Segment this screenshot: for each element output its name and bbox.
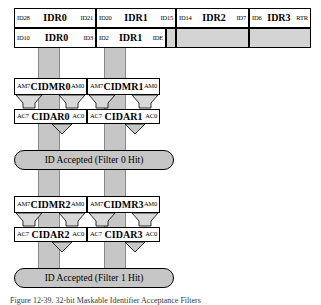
cidar1-register: AC7 CIDAR1 AC0 (87, 109, 160, 124)
cidmr2-name: CIDMR2 (30, 200, 71, 210)
cidmr0-name: CIDMR0 (30, 82, 71, 92)
cidmr2-left: AM7 (17, 201, 30, 208)
idr-row1-cell-0: ID28 IDR0 ID21 (14, 8, 96, 28)
cidar3-left: AC7 (90, 231, 102, 238)
cidar2-left: AC7 (17, 231, 29, 238)
idr-row1-cell-2-name: IDR2 (192, 13, 237, 23)
compare-triangles-filter0 (14, 124, 160, 135)
idr-row1-cell-1-right: ID15 (160, 15, 173, 22)
cidar3-right: AC0 (145, 231, 157, 238)
idr-row2-cell-1: ID2 IDR1 IDE (96, 28, 166, 48)
connector-bar-f1-right-feed (104, 170, 126, 196)
cidar2-name: CIDAR2 (29, 230, 73, 240)
cidmr1-name: CIDMR1 (103, 82, 144, 92)
idr-row1-cell-1-left: ID20 (99, 15, 112, 22)
funnel-arrows-filter0 (14, 95, 160, 109)
idr-row1-cell-0-name: IDR0 (30, 13, 81, 23)
cidar2-register: AC7 CIDAR2 AC0 (14, 227, 87, 242)
cidar2-right: AC0 (72, 231, 84, 238)
idr-row2-cell-1-left: ID2 (99, 35, 109, 42)
idr-row1-cell-3: ID6 IDR3 RTR (249, 8, 311, 28)
cidmr3-register: AM7 CIDMR3 AM0 (87, 196, 160, 213)
cidmr1-right: AM0 (144, 83, 157, 90)
cidar1-left: AC7 (90, 113, 102, 120)
cidar0-name: CIDAR0 (29, 112, 73, 122)
idr-row2-cell-2-empty (166, 28, 176, 48)
compare-triangles-filter1 (14, 242, 160, 253)
cidar0-right: AC0 (72, 113, 84, 120)
connector-bar-idr1-col (104, 48, 126, 78)
id-accepted-filter0: ID Accepted (Filter 0 Hit) (14, 150, 174, 170)
cidar3-register: AC7 CIDAR3 AC0 (87, 227, 160, 242)
cidar1-right: AC0 (145, 113, 157, 120)
cidmr3-right: AM0 (144, 201, 157, 208)
idr-row2-cell-3-empty (176, 28, 249, 48)
cidmr1-left: AM7 (90, 83, 103, 90)
figure-caption: Figure 12-39. 32-bit Maskable Identifier… (10, 296, 315, 305)
idr-row2-cell-0-right: ID3 (83, 35, 93, 42)
idr-row1-cell-3-right: RTR (296, 15, 308, 22)
idr-row2-cell-0-name: IDR0 (30, 33, 84, 43)
idr-row1-cell-2-left: ID14 (179, 15, 192, 22)
idr-row1-cell-1: ID20 IDR1 ID15 (96, 8, 176, 28)
cidmr0-register: AM7 CIDMR0 AM0 (14, 78, 87, 95)
idr-row1-cell-2: ID14 IDR2 ID7 (176, 8, 249, 28)
cidmr0-left: AM7 (17, 83, 30, 90)
idr-row1-cell-2-right: ID7 (236, 15, 246, 22)
idr-row2-cell-0-left: ID10 (17, 35, 30, 42)
cidmr3-name: CIDMR3 (103, 200, 144, 210)
idr-row2-cell-0: ID10 IDR0 ID3 (14, 28, 96, 48)
funnel-arrows-filter1 (14, 213, 160, 227)
cidar3-name: CIDAR3 (102, 230, 146, 240)
cidar0-left: AC7 (17, 113, 29, 120)
id-accepted-filter1: ID Accepted (Filter 1 Hit) (14, 268, 174, 288)
idr-row2-cell-1-right: IDE (153, 35, 163, 42)
cidar1-name: CIDAR1 (102, 112, 146, 122)
cidmr0-right: AM0 (71, 83, 84, 90)
id-accepted-filter0-label: ID Accepted (Filter 0 Hit) (45, 155, 144, 165)
idr-row1-cell-0-left: ID28 (17, 15, 30, 22)
cidar0-register: AC7 CIDAR0 AC0 (14, 109, 87, 124)
cidmr2-right: AM0 (71, 201, 84, 208)
cidmr3-left: AM7 (90, 201, 103, 208)
idr-row2-cell-4-empty (249, 28, 311, 48)
connector-bar-idr0-col (38, 48, 60, 78)
cidmr1-register: AM7 CIDMR1 AM0 (87, 78, 160, 95)
idr-row2-cell-1-name: IDR1 (109, 33, 153, 43)
idr-row1-cell-1-name: IDR1 (112, 13, 161, 23)
cidmr2-register: AM7 CIDMR2 AM0 (14, 196, 87, 213)
id-accepted-filter1-label: ID Accepted (Filter 1 Hit) (45, 273, 144, 283)
connector-bar-f1-left-feed (38, 170, 60, 196)
idr-row1-cell-3-name: IDR3 (262, 13, 297, 23)
idr-row1-cell-0-right: ID21 (80, 15, 93, 22)
idr-row1-cell-3-left: ID6 (252, 15, 262, 22)
